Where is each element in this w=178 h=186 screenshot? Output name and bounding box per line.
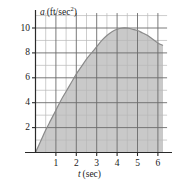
x-tick-label-5: 5: [130, 159, 146, 169]
y-tick-label-2: 2: [2, 123, 30, 133]
x-tick-label-6: 6: [150, 159, 166, 169]
y-axis-unit-open: (ft/sec: [47, 7, 71, 17]
x-tick-label-2: 2: [68, 159, 84, 169]
x-axis-title: t (sec): [78, 170, 101, 180]
x-tick-label-1: 1: [48, 159, 64, 169]
x-tick-label-4: 4: [109, 159, 125, 169]
acceleration-vs-time-figure: a (ft/sec2) t (sec) 246810 123456: [0, 0, 178, 186]
y-tick-label-8: 8: [2, 48, 30, 58]
y-axis-unit-close: ): [74, 7, 77, 17]
y-tick-label-10: 10: [2, 24, 30, 34]
x-tick-label-3: 3: [89, 159, 105, 169]
y-axis-title: a (ft/sec2): [40, 6, 77, 18]
x-axis-unit: (sec): [83, 169, 101, 179]
y-tick-label-4: 4: [2, 98, 30, 108]
y-tick-label-6: 6: [2, 73, 30, 83]
